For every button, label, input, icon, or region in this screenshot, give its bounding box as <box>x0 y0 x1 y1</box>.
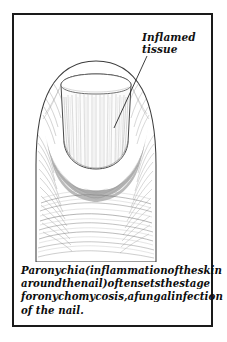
nail-free-edge <box>61 74 131 94</box>
caption-word: the <box>179 264 198 277</box>
caption-word: fungal <box>134 290 171 303</box>
caption-word: Paronychia <box>21 264 85 277</box>
figure-caption: Paronychia (inflammation of the skin aro… <box>21 264 204 317</box>
caption-word: infection <box>171 290 223 303</box>
caption-word: stage <box>179 277 210 290</box>
caption-line-1: Paronychia (inflammation of the skin <box>21 264 204 277</box>
inflamed-tissue-label: Inflamed tissue <box>142 32 208 55</box>
callout-label-line-1: Inflamed <box>142 32 208 44</box>
caption-word: around <box>21 277 62 290</box>
caption-word: of <box>168 264 179 277</box>
figure-frame: Inflamed tissue Paronychia (inflammation… <box>12 13 213 327</box>
caption-word: (inflammation <box>85 264 168 277</box>
caption-word: for <box>21 290 38 303</box>
caption-word: nail) <box>81 277 108 290</box>
caption-word: the <box>62 277 81 290</box>
caption-word: onychomycosis, <box>38 290 128 303</box>
callout-label-line-2: tissue <box>142 44 208 56</box>
caption-line-3: for onychomycosis, a fungal infection <box>21 290 204 303</box>
caption-line-2: around the nail) often sets the stage <box>21 277 204 290</box>
caption-word: often <box>108 277 138 290</box>
caption-word: skin <box>198 264 222 277</box>
caption-line-4: of the nail. <box>21 304 204 317</box>
caption-word: sets <box>138 277 161 290</box>
caption-word: the <box>160 277 179 290</box>
